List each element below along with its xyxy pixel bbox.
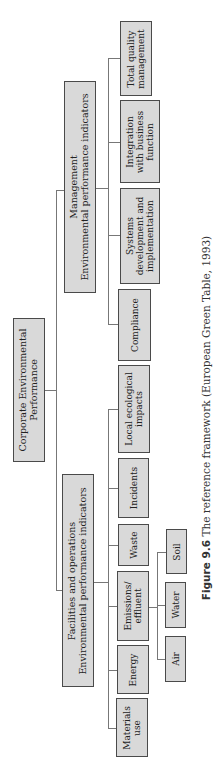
node-label: Incidents — [128, 467, 138, 509]
node-label: Corporate Environmental Performance — [18, 328, 39, 451]
connector-management-out — [96, 188, 108, 189]
node-label: Air — [170, 652, 180, 666]
node-label: Waste — [128, 531, 138, 558]
node-label: Water — [170, 591, 180, 618]
node-label: Management Environmental performance ind… — [69, 93, 90, 280]
node-label: Soil — [171, 543, 181, 560]
connector-energy — [108, 670, 117, 671]
node-management: Management Environmental performance ind… — [64, 81, 96, 293]
node-air: Air — [165, 636, 186, 682]
figure-number: Figure 9.6 — [200, 540, 212, 600]
connector-emissions — [108, 606, 117, 607]
node-waste: Waste — [118, 524, 149, 566]
node-integration-business-function: Integration with business function — [120, 100, 160, 183]
connector-waste — [108, 545, 118, 546]
connector-local-ecological — [108, 409, 118, 410]
connector-systems — [108, 235, 120, 236]
node-facilities-operations: Facilities and operations Environmental … — [62, 474, 94, 687]
connector-management-trunk — [108, 58, 109, 325]
connector-tqm — [108, 58, 120, 59]
node-energy: Energy — [117, 645, 149, 694]
node-water: Water — [165, 582, 186, 628]
connector-materials — [108, 728, 116, 729]
connector-root-trunk — [45, 390, 56, 391]
node-compliance: Compliance — [118, 289, 151, 361]
connector-facilities-out — [94, 582, 108, 583]
connector-trunk-management — [56, 190, 64, 191]
connector-level1-trunk — [56, 190, 57, 591]
node-soil: Soil — [166, 529, 187, 574]
node-label: Facilities and operations Environmental … — [67, 487, 88, 674]
node-emissions-effluent: Emissions/ effluent — [117, 571, 149, 641]
node-materials-use: Materials use — [116, 698, 148, 757]
connector-air — [157, 659, 165, 660]
connector-compliance — [108, 324, 118, 325]
figure-caption: Figure 9.6 The reference framework (Euro… — [200, 236, 212, 600]
node-incidents: Incidents — [118, 458, 149, 518]
connector-water — [157, 605, 165, 606]
node-label: Compliance — [129, 298, 139, 352]
connector-soil — [157, 552, 166, 553]
node-label: Total quality management — [126, 29, 146, 88]
node-local-ecological-impacts: Local ecological impacts — [118, 365, 150, 453]
node-label: Emissions/ effluent — [123, 582, 143, 631]
caption-text: The reference framework (European Green … — [200, 236, 212, 540]
node-label: Local ecological impacts — [124, 372, 144, 446]
connector-emissions-out — [149, 607, 157, 608]
node-label: Materials use — [122, 706, 142, 750]
node-corporate-environmental-performance: Corporate Environmental Performance — [13, 318, 45, 462]
connector-incidents — [108, 488, 118, 489]
node-label: Integration with business function — [125, 110, 155, 172]
node-systems-development: Systems development and implementation — [120, 188, 160, 284]
diagram-canvas: Corporate Environmental Performance Mana… — [0, 0, 219, 776]
connector-integration — [108, 142, 120, 143]
connector-facilities-trunk — [108, 409, 109, 729]
node-label: Energy — [128, 653, 138, 686]
node-label: Systems development and implementation — [125, 197, 155, 276]
node-total-quality-management: Total quality management — [120, 21, 152, 96]
connector-emissions-trunk — [157, 552, 158, 660]
